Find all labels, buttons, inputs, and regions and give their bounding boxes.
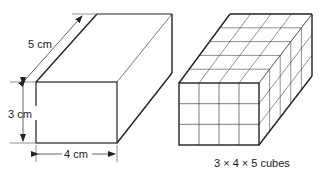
width-label: 4 cm <box>64 148 88 160</box>
diagram-canvas: 5 cm 3 cm 4 cm <box>0 0 325 175</box>
height-label: 3 cm <box>8 108 32 120</box>
rectangular-prism <box>36 14 172 143</box>
cube-grid-prism <box>179 14 312 145</box>
depth-label: 5 cm <box>28 38 52 50</box>
cubes-caption: 3 × 4 × 5 cubes <box>214 157 290 169</box>
